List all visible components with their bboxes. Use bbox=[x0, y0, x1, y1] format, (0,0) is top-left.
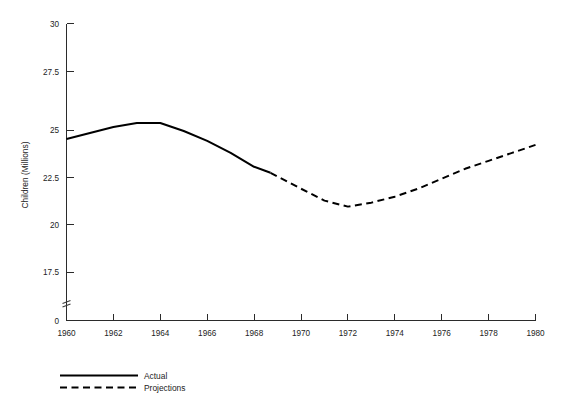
x-tick-label-1974: 1974 bbox=[386, 329, 405, 338]
y-axis-ticks bbox=[67, 24, 74, 273]
chart-figure: 30 27.5 25 22.5 20 17.5 0 1960 1962 1964… bbox=[0, 0, 565, 408]
x-tick-label-1966: 1966 bbox=[198, 329, 217, 338]
x-tick-label-1972: 1972 bbox=[339, 329, 358, 338]
x-tick-label-1968: 1968 bbox=[245, 329, 264, 338]
chart-legend: Actual Projections bbox=[60, 371, 185, 393]
y-axis-title: Children (Millions) bbox=[20, 141, 30, 208]
y-tick-label-25: 25 bbox=[50, 126, 60, 135]
x-axis-ticks bbox=[67, 314, 536, 321]
y-tick-label-17-5: 17.5 bbox=[43, 268, 59, 277]
x-tick-label-1964: 1964 bbox=[151, 329, 170, 338]
x-tick-label-1978: 1978 bbox=[479, 329, 498, 338]
series-line-actual bbox=[67, 123, 271, 173]
x-tick-label-1960: 1960 bbox=[57, 329, 76, 338]
x-tick-label-1970: 1970 bbox=[292, 329, 311, 338]
x-tick-label-1962: 1962 bbox=[104, 329, 123, 338]
x-tick-labels: 1960 1962 1964 1966 1968 1970 1972 1974 … bbox=[57, 329, 545, 338]
y-tick-label-30: 30 bbox=[50, 20, 60, 29]
y-tick-label-20: 20 bbox=[50, 221, 60, 230]
y-tick-label-27-5: 27.5 bbox=[43, 68, 59, 77]
legend-label-actual: Actual bbox=[144, 371, 167, 381]
legend-label-projections: Projections bbox=[144, 383, 185, 393]
x-tick-label-1980: 1980 bbox=[526, 329, 545, 338]
series-line-projections bbox=[271, 145, 536, 207]
x-tick-label-1976: 1976 bbox=[433, 329, 452, 338]
y-tick-label-zero: 0 bbox=[54, 317, 59, 326]
line-chart-svg: 30 27.5 25 22.5 20 17.5 0 1960 1962 1964… bbox=[0, 0, 565, 408]
y-tick-label-22-5: 22.5 bbox=[43, 174, 59, 183]
y-tick-labels: 30 27.5 25 22.5 20 17.5 0 bbox=[43, 20, 59, 326]
